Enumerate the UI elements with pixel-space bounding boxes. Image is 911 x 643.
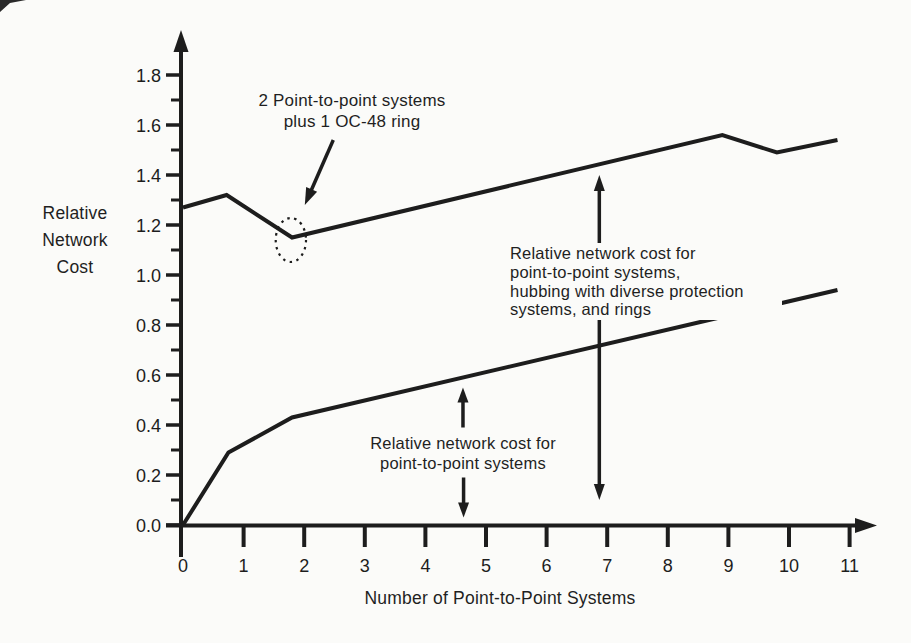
y-axis-title-line: Network [18,227,132,254]
y-axis-title-line: Cost [18,254,132,281]
y-axis-title-line: Relative [18,200,132,227]
svg-text:4: 4 [420,556,430,576]
annotation-upper-series-label: Relative network cost for point-to-point… [508,243,782,320]
svg-text:0.0: 0.0 [136,516,161,536]
svg-text:0.8: 0.8 [136,316,161,336]
svg-text:0.6: 0.6 [136,366,161,386]
annotation-line: hubbing with diverse protection [510,282,780,301]
network-cost-figure: 0.00.20.40.60.81.01.21.41.61.80123456789… [0,0,911,643]
svg-text:11: 11 [840,556,859,576]
svg-text:10: 10 [779,556,799,576]
annotation-line: point-to-point systems, [510,263,780,282]
svg-text:1.0: 1.0 [136,266,161,286]
svg-text:5: 5 [481,556,491,576]
annotation-line: Relative network cost for [350,434,576,454]
svg-text:1.8: 1.8 [136,66,161,86]
svg-text:2: 2 [299,556,309,576]
annotation-oc48-ring-callout: 2 Point-to-point systems plus 1 OC-48 ri… [240,90,464,132]
annotation-lower-series-label: Relative network cost for point-to-point… [350,434,576,473]
annotation-line: plus 1 OC-48 ring [240,111,464,132]
x-axis-title: Number of Point-to-Point Systems [330,588,670,609]
svg-text:0.4: 0.4 [136,416,161,436]
svg-text:1.6: 1.6 [136,116,161,136]
svg-text:6: 6 [542,556,552,576]
annotation-line: point-to-point systems [350,454,576,474]
svg-text:9: 9 [723,556,733,576]
svg-text:1: 1 [239,556,249,576]
svg-text:1.4: 1.4 [136,166,161,186]
annotation-line: Relative network cost for [510,244,780,263]
annotation-line: 2 Point-to-point systems [240,90,464,111]
y-axis-title: Relative Network Cost [18,200,132,281]
svg-text:0: 0 [178,556,188,576]
svg-text:3: 3 [360,556,370,576]
svg-text:1.2: 1.2 [136,216,161,236]
svg-text:0.2: 0.2 [136,466,161,486]
svg-text:8: 8 [663,556,673,576]
svg-text:7: 7 [602,556,612,576]
annotation-line: systems, and rings [510,300,780,319]
scan-edge-artifact [0,0,30,14]
